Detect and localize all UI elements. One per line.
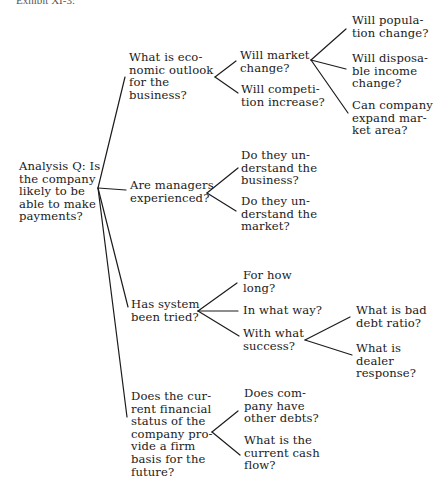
node-market-change: Will market change?: [240, 49, 310, 74]
node-how-long: For how long?: [243, 269, 292, 294]
edge-market-population: [311, 29, 346, 60]
node-other-debts: Does com- pany have other debts?: [244, 387, 319, 425]
edge-system-howlong: [198, 283, 237, 311]
edge-success-baddebt: [305, 317, 350, 340]
node-competition-increase: Will competi- tion increase?: [241, 83, 325, 108]
edge-root-system: [98, 188, 128, 307]
node-understand-market: Do they un- derstand the market?: [241, 195, 317, 233]
edge-financial-debts: [212, 411, 238, 432]
edge-financial-cashflow: [212, 432, 240, 455]
node-what-success: With what success?: [243, 327, 304, 352]
edge-system-success: [198, 311, 239, 336]
edge-root-economic: [98, 77, 125, 188]
node-managers-experienced: Are managers experienced?: [130, 179, 214, 204]
edge-success-dealer: [305, 340, 352, 355]
node-economic-outlook: What is eco- nomic outlook for the busin…: [129, 51, 213, 101]
edge-root-managers: [98, 188, 126, 190]
root-question: Analysis Q: Is the company likely to be …: [19, 160, 100, 223]
node-dealer-response: What is dealer response?: [356, 342, 416, 380]
node-financial-status: Does the cur- rent financial status of t…: [131, 390, 213, 478]
issue-tree-diagram: Exhibit XI-3: Analysis Q: Is the company…: [0, 0, 440, 487]
node-what-way: In what way?: [243, 304, 322, 317]
edge-economic-market: [215, 61, 236, 77]
edge-root-financial: [98, 188, 127, 417]
node-bad-debt-ratio: What is bad debt ratio?: [356, 304, 427, 329]
edge-economic-competition: [215, 77, 238, 93]
node-cash-flow: What is the current cash flow?: [244, 434, 320, 472]
node-disposable-income-change: Will disposa- ble income change?: [352, 52, 428, 90]
node-expand-market-area: Can company expand mar- ket area?: [352, 99, 433, 137]
node-understand-business: Do they un- derstand the business?: [241, 149, 317, 187]
node-system-tried: Has system been tried?: [131, 298, 200, 323]
node-population-change: Will popula- tion change?: [352, 14, 429, 39]
